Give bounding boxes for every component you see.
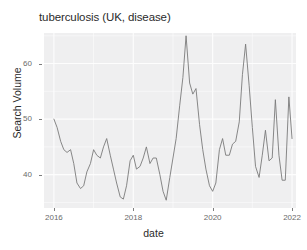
plot-panel bbox=[44, 33, 296, 208]
plot-svg bbox=[44, 33, 296, 208]
x-tick-label: 2022 bbox=[283, 213, 301, 222]
chart-container: tuberculosis (UK, disease) 405060 201620… bbox=[0, 0, 307, 250]
y-tick-label: 50 bbox=[23, 114, 32, 123]
x-tick-mark bbox=[213, 208, 214, 211]
y-tick-mark bbox=[39, 119, 42, 120]
y-tick-mark bbox=[39, 64, 42, 65]
y-tick-mark bbox=[39, 175, 42, 176]
x-axis-title: date bbox=[0, 227, 307, 239]
x-tick-mark bbox=[133, 208, 134, 211]
x-tick-label: 2020 bbox=[204, 213, 222, 222]
y-axis-title: Search Volume bbox=[11, 43, 23, 163]
x-tick-label: 2018 bbox=[124, 213, 142, 222]
chart-title: tuberculosis (UK, disease) bbox=[39, 11, 171, 23]
y-tick-label: 60 bbox=[23, 59, 32, 68]
y-tick-label: 40 bbox=[23, 170, 32, 179]
gridlines bbox=[44, 33, 296, 208]
x-tick-mark bbox=[54, 208, 55, 211]
x-tick-mark bbox=[292, 208, 293, 211]
x-tick-label: 2016 bbox=[45, 213, 63, 222]
